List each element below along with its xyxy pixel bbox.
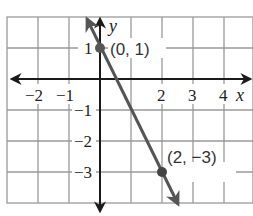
x-axis-label: x <box>235 85 244 105</box>
y-tick-1: 1 <box>84 39 93 58</box>
y-axis-label: y <box>107 16 117 36</box>
y-tick-neg3: −3 <box>74 163 92 182</box>
y-tick-neg1: −1 <box>74 101 92 120</box>
x-tick-neg1: −1 <box>56 86 74 105</box>
coordinate-plane: y x −2 −1 2 3 4 1 −1 −2 −3 (0, 1) (2, −3… <box>0 0 253 216</box>
point-2-neg3 <box>157 167 167 177</box>
x-tick-2: 2 <box>157 86 166 105</box>
point-0-1 <box>95 43 105 53</box>
point-label-0-1: (0, 1) <box>110 40 150 59</box>
x-tick-4: 4 <box>219 86 228 105</box>
y-tick-neg2: −2 <box>74 132 92 151</box>
x-tick-neg2: −2 <box>25 86 43 105</box>
x-tick-3: 3 <box>188 86 197 105</box>
point-label-2-neg3: (2, −3) <box>167 148 217 167</box>
